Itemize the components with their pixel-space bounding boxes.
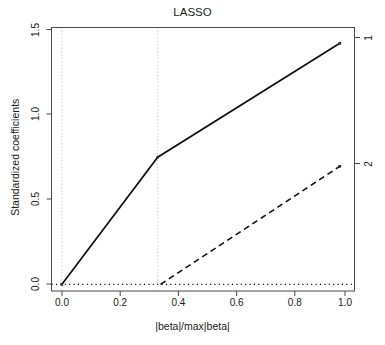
x-tick-label-5: 1.0 (338, 298, 352, 308)
x-tick-label-2: 0.4 (171, 298, 185, 308)
lasso-coefficient-path-chart: LASSO |beta|/max|beta| Standardized coef… (0, 0, 385, 345)
plot-frame (52, 28, 355, 292)
plot-canvas (0, 0, 385, 345)
x-axis-ticks (62, 291, 345, 296)
breakpoint-guides (62, 28, 158, 292)
x-tick-label-1: 0.2 (113, 298, 127, 308)
x-axis-label: |beta|/max|beta| (0, 321, 385, 332)
y-tick-label-2: 1.0 (31, 103, 41, 125)
right-tick-label-variable-1: 1 (364, 31, 374, 45)
right-tick-label-variable-2: 2 (364, 157, 374, 171)
y-axis-label: Standardized coefficients (10, 82, 21, 232)
chart-title: LASSO (0, 7, 385, 19)
knot-markers (61, 42, 342, 286)
x-tick-label-3: 0.6 (230, 298, 244, 308)
coefficient-path-variable-1 (62, 43, 340, 284)
coefficient-path-variable-2 (161, 166, 340, 284)
y-tick-label-1: 0.5 (31, 188, 41, 210)
x-tick-label-0: 0.0 (55, 298, 69, 308)
y-axis-ticks (47, 30, 52, 285)
y-tick-label-0: 0.0 (31, 273, 41, 295)
right-axis-ticks (355, 38, 361, 164)
y-tick-label-3: 1.5 (31, 19, 41, 41)
x-tick-label-4: 0.8 (288, 298, 302, 308)
